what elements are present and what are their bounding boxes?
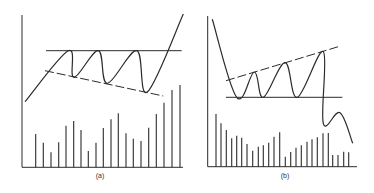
price-curve (212, 19, 352, 143)
price-curve (25, 14, 183, 102)
panel-b-caption: (b) (270, 172, 300, 179)
chart-pattern-diagram (0, 0, 374, 193)
panel-b-descending-pattern (208, 16, 357, 167)
panel-a-caption: (a) (85, 172, 115, 179)
panel-a-ascending-pattern (22, 14, 183, 167)
